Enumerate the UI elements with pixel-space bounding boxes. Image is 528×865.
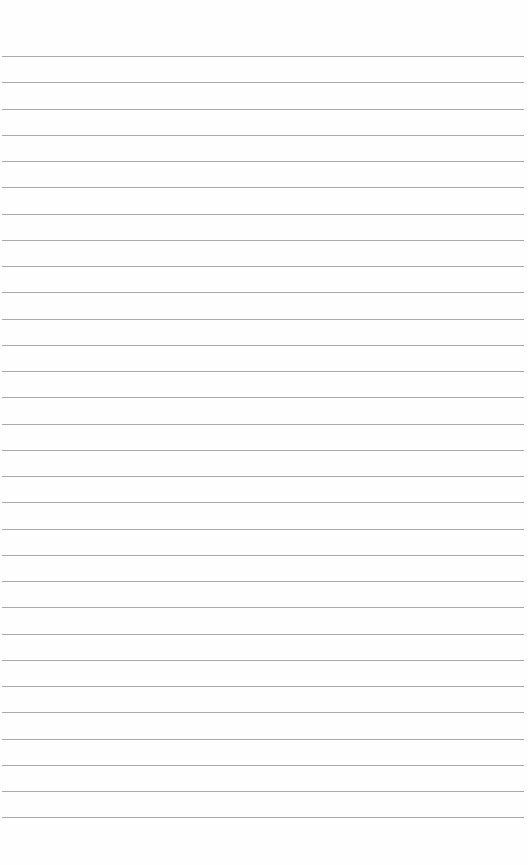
ruled-line (2, 791, 524, 792)
ruled-line (2, 476, 524, 477)
ruled-line (2, 187, 524, 188)
ruled-line (2, 634, 524, 635)
ruled-line (2, 686, 524, 687)
ruled-line (2, 82, 524, 83)
ruled-line (2, 109, 524, 110)
ruled-line (2, 135, 524, 136)
ruled-line (2, 371, 524, 372)
ruled-line (2, 450, 524, 451)
ruled-line (2, 712, 524, 713)
ruled-line (2, 292, 524, 293)
ruled-line (2, 581, 524, 582)
ruled-line (2, 345, 524, 346)
lined-paper (0, 0, 528, 865)
ruled-line (2, 397, 524, 398)
ruled-line (2, 739, 524, 740)
ruled-line (2, 161, 524, 162)
ruled-line (2, 424, 524, 425)
ruled-line (2, 319, 524, 320)
ruled-line (2, 817, 524, 818)
ruled-line (2, 660, 524, 661)
ruled-line (2, 502, 524, 503)
ruled-line (2, 555, 524, 556)
ruled-line (2, 266, 524, 267)
ruled-line (2, 607, 524, 608)
ruled-line (2, 56, 524, 57)
ruled-line (2, 214, 524, 215)
ruled-line (2, 240, 524, 241)
ruled-line (2, 529, 524, 530)
ruled-line (2, 765, 524, 766)
